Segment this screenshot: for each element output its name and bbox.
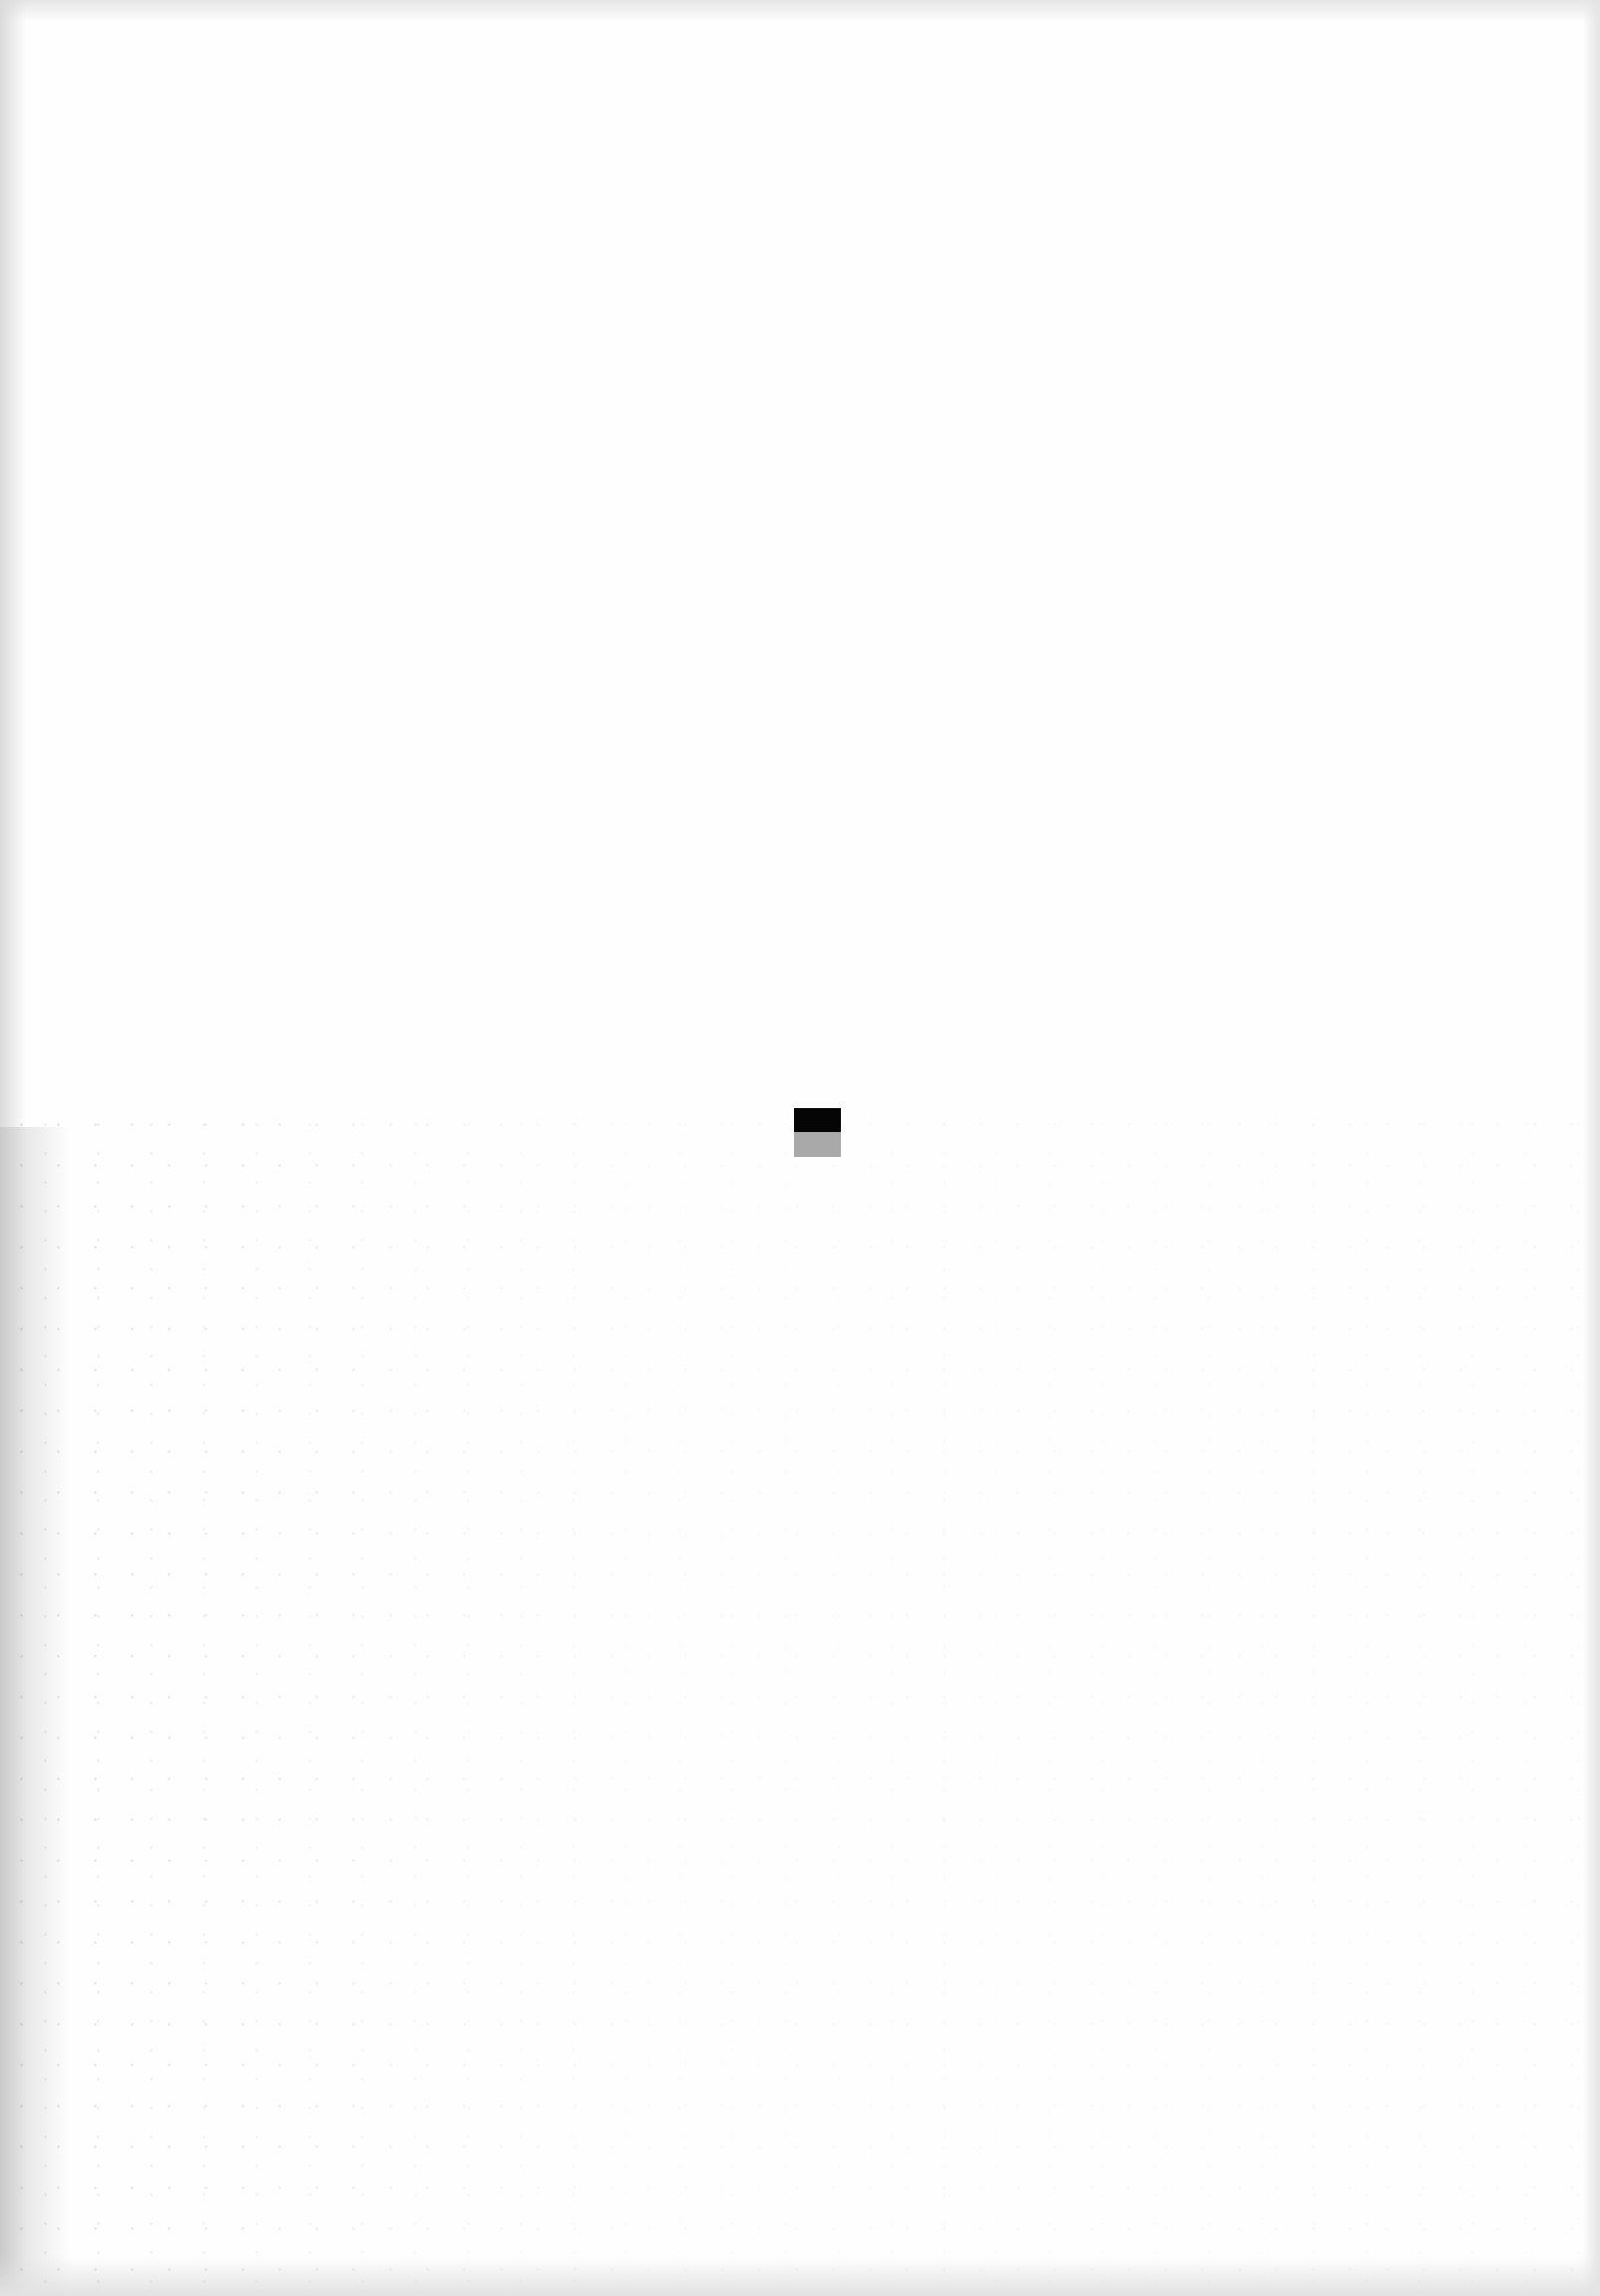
mark-gray-block bbox=[794, 1132, 841, 1157]
blank-document-page bbox=[0, 0, 1600, 2296]
center-registration-mark bbox=[794, 1108, 841, 1157]
scan-edge-top bbox=[0, 0, 1600, 22]
scan-speckle-noise bbox=[0, 1097, 1600, 2296]
mark-black-block bbox=[794, 1108, 841, 1132]
